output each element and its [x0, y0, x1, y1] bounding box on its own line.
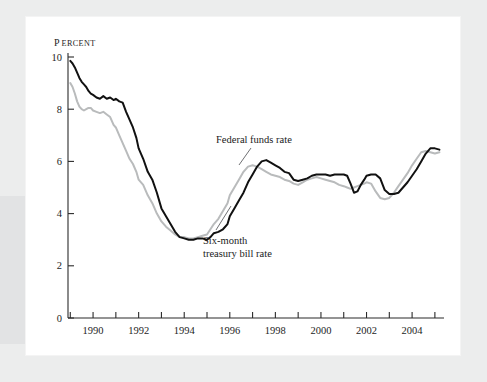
annotation-federal-funds-rate: Federal funds rate: [216, 134, 292, 145]
chart-svg: P ERCENT 0246810 19901992199419961998200…: [26, 17, 460, 355]
annotation-six-month-line2: treasury bill rate: [203, 248, 272, 259]
y-axis-label-first-letter: P: [54, 37, 60, 48]
x-tick-label: 1990: [83, 325, 104, 336]
x-axis-ticks: 19901992199419961998200020022004: [70, 312, 435, 336]
y-tick-label: 8: [57, 104, 62, 115]
y-tick-label: 2: [57, 260, 62, 271]
y-tick-label: 4: [57, 208, 63, 219]
annotation-six-month-line1: Six-month: [203, 235, 248, 246]
x-tick-label: 2000: [310, 325, 331, 336]
x-tick-label: 2004: [402, 325, 424, 336]
x-tick-label: 1994: [174, 325, 196, 336]
federal-funds-rate-leader-line: [239, 148, 251, 165]
x-tick-label: 1992: [128, 325, 149, 336]
y-tick-label: 0: [57, 313, 62, 324]
x-tick-label: 2002: [356, 325, 377, 336]
x-tick-label: 1996: [219, 325, 240, 336]
x-tick-label: 1998: [265, 325, 286, 336]
y-tick-label: 10: [52, 52, 63, 63]
line-chart: P ERCENT 0246810 19901992199419961998200…: [26, 17, 460, 355]
series-six-month-treasury-bill-rate: [70, 83, 439, 238]
y-axis-label-rest: ERCENT: [62, 39, 96, 48]
y-tick-label: 6: [57, 156, 62, 167]
y-axis-ticks: 0246810: [52, 52, 75, 324]
scan-edge-artifact: [0, 196, 26, 344]
